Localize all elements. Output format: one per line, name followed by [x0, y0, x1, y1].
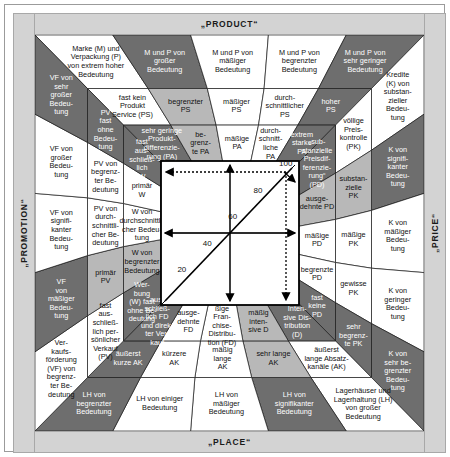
scale-tick-label: 80 [254, 186, 263, 195]
axis-band-price: „PRICE“ [424, 13, 446, 453]
diagram-frame: „PRODUCT“ „PLACE“ „PROMOTION“ „PRICE“ Ma… [4, 4, 445, 452]
wedge-cell [195, 341, 252, 378]
axis-title-price: „PRICE“ [430, 213, 440, 253]
axis-band-place: „PLACE“ [13, 431, 446, 453]
diagram-canvas: „PRODUCT“ „PLACE“ „PROMOTION“ „PRICE“ Ma… [0, 0, 450, 457]
axis-band-product: „PRODUCT“ [13, 13, 446, 35]
axis-title-promotion: „PROMOTION“ [19, 198, 29, 268]
center-scale-box: 020406080100 [160, 160, 300, 306]
wedge-cell [88, 198, 124, 256]
axis-title-product: „PRODUCT“ [201, 19, 259, 29]
wedge-cell [336, 210, 372, 268]
scale-tick-label: 40 [203, 239, 212, 248]
scale-tick-label: 20 [177, 265, 186, 274]
scale-tick-label: 100 [279, 160, 293, 168]
axis-title-place: „PLACE“ [208, 437, 251, 447]
wedge-cell [207, 89, 264, 126]
matrix-plot: Marke (M) und Verpackung (P) von extrem … [35, 35, 424, 431]
scale-tick-label: 60 [228, 212, 237, 221]
axis-band-promotion: „PROMOTION“ [13, 13, 35, 453]
